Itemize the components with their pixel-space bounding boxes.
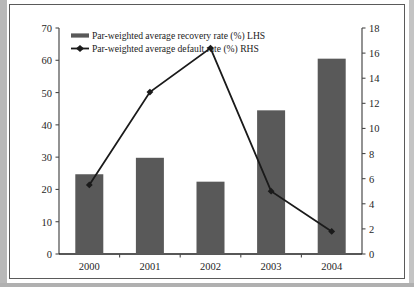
x-axis-category-label: 2000: [79, 261, 100, 272]
left-axis-tick-label: 70: [42, 23, 53, 34]
left-axis-tick-label: 30: [42, 152, 53, 163]
left-axis-tick-label: 40: [42, 120, 53, 131]
left-axis-tick-label: 0: [47, 249, 52, 260]
right-axis-tick-label: 12: [369, 98, 380, 109]
bar-2002: [197, 182, 225, 254]
right-axis-tick-label: 16: [369, 48, 380, 59]
right-axis-tick-label: 14: [369, 73, 380, 84]
left-axis-tick-label: 60: [42, 55, 53, 66]
right-axis-tick-label: 0: [369, 249, 374, 260]
page-edge-bottom-artifact: [0, 283, 414, 287]
chart-plot-area: 0102030405060700246810121416182000200120…: [9, 4, 405, 279]
bar-2003: [257, 110, 285, 254]
x-axis-category-label: 2001: [139, 261, 160, 272]
left-axis-tick-label: 50: [42, 88, 53, 99]
legend-label-1: Par-weighted average default rate (%) RH…: [92, 43, 259, 55]
legend-label-0: Par-weighted average recovery rate (%) L…: [92, 30, 265, 42]
bar-2001: [136, 158, 164, 254]
x-axis-category-label: 2004: [321, 261, 343, 272]
right-axis-tick-label: 10: [369, 123, 380, 134]
right-axis-tick-label: 18: [369, 23, 380, 34]
chart-figure: 0102030405060700246810121416182000200120…: [0, 0, 414, 287]
page-edge-right-artifact: [409, 0, 414, 287]
legend-swatch-marker: [76, 45, 84, 52]
left-axis-tick-label: 10: [42, 217, 53, 228]
right-axis-tick-label: 6: [369, 174, 374, 185]
right-axis-tick-label: 8: [369, 149, 374, 160]
left-axis-tick-label: 20: [42, 184, 53, 195]
x-axis-category-label: 2003: [261, 261, 282, 272]
chart-canvas: 0102030405060700246810121416182000200120…: [9, 4, 405, 279]
right-axis-tick-label: 4: [369, 199, 375, 210]
legend-swatch-bar: [71, 33, 89, 37]
x-axis-category-label: 2002: [200, 261, 221, 272]
right-axis-tick-label: 2: [369, 224, 374, 235]
page-edge-left-artifact: [0, 0, 7, 287]
